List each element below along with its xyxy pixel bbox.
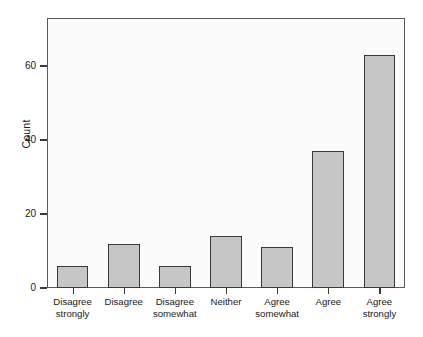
bar-agree-somewhat <box>261 247 293 288</box>
x-tick-mark <box>124 288 125 294</box>
x-tick-label: Disagree <box>105 296 143 308</box>
bar-disagree <box>108 244 140 288</box>
y-tick-label: 20 <box>6 209 36 219</box>
bar-agree-strongly <box>364 55 396 288</box>
x-tick-mark <box>73 288 74 294</box>
x-tick-label: Agreestrongly <box>363 296 397 319</box>
y-tick-mark <box>40 213 47 214</box>
x-tick-label: Agree <box>315 296 341 308</box>
x-tick-mark <box>328 288 329 294</box>
x-tick-label: Disagreesomewhat <box>153 296 197 319</box>
y-tick-mark <box>40 139 47 140</box>
x-tick-label: Agreesomewhat <box>255 296 299 319</box>
y-tick-label: 0 <box>6 283 36 293</box>
bar-neither <box>210 236 242 288</box>
x-tick-mark <box>226 288 227 294</box>
bar-agree <box>312 151 344 288</box>
y-tick-label: 40 <box>6 135 36 145</box>
bars-layer <box>47 18 405 288</box>
x-tick-label: Disagreestrongly <box>53 296 91 319</box>
y-tick-label: 60 <box>6 61 36 71</box>
x-tick-mark <box>379 288 380 294</box>
y-tick-mark <box>40 287 47 288</box>
x-tick-mark <box>175 288 176 294</box>
bar-chart-figure: Count 0204060 DisagreestronglyDisagreeDi… <box>0 0 423 337</box>
x-tick-mark <box>277 288 278 294</box>
x-tick-label: Neither <box>211 296 242 308</box>
y-tick-mark <box>40 65 47 66</box>
bar-disagree-somewhat <box>159 266 191 288</box>
bar-disagree-strongly <box>57 266 89 288</box>
